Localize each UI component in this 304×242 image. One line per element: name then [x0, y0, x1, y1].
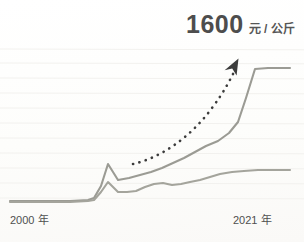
- annotation-unit: 元 / 公斤: [249, 23, 295, 35]
- x-axis-end-label: 2021 年: [233, 215, 272, 226]
- series-line-upper: [10, 68, 290, 201]
- series-line-lower: [10, 170, 290, 202]
- value-annotation: 1600 元 / 公斤: [186, 12, 295, 37]
- gridlines: [0, 49, 304, 199]
- chart-container: 1600 元 / 公斤 2000 年 2021 年: [0, 0, 304, 242]
- trend-arrow-dotted: [133, 59, 239, 165]
- x-axis-start-label: 2000 年: [10, 215, 49, 226]
- annotation-value: 1600: [186, 12, 244, 37]
- arrowhead-icon: [225, 59, 239, 76]
